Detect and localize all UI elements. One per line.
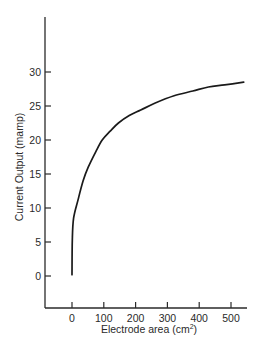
x-axis-label-text: Electrode area (cm	[101, 323, 190, 335]
y-tick-label: 20	[29, 134, 41, 146]
x-axis-label-close: )	[194, 323, 198, 335]
x-tick-label: 500	[222, 312, 240, 324]
y-tick-label: 25	[29, 100, 41, 112]
y-axis-label: Current Output (mamp)	[13, 113, 25, 222]
chart: 051015202530 0100200300400500 Current Ou…	[0, 0, 257, 356]
data-curve	[72, 82, 244, 274]
axes	[45, 17, 247, 308]
x-axis-label: Electrode area (cm2)	[101, 323, 197, 335]
y-tick-label: 10	[29, 202, 41, 214]
x-tick-label: 0	[69, 312, 75, 324]
y-ticks: 051015202530	[29, 66, 51, 282]
y-tick-label: 30	[29, 66, 41, 78]
y-tick-label: 0	[35, 270, 41, 282]
y-tick-label: 15	[29, 168, 41, 180]
x-ticks: 0100200300400500	[69, 302, 240, 324]
y-tick-label: 5	[35, 236, 41, 248]
